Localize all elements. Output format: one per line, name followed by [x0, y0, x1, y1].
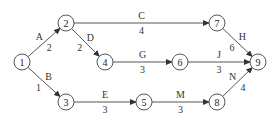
network-diagram: A2B1C4D2E3G3H6J3M3N4 123456789	[0, 0, 278, 123]
activity-label: C	[138, 10, 145, 21]
duration-label: 4	[241, 82, 246, 93]
duration-label: 3	[178, 104, 183, 115]
activity-label: E	[102, 89, 108, 100]
node-2: 2	[58, 15, 74, 31]
duration-label: 3	[140, 64, 145, 75]
node-4: 4	[97, 54, 113, 70]
edge-B	[28, 67, 60, 96]
duration-label: 2	[77, 42, 82, 53]
node-label: 7	[215, 18, 220, 29]
edge-A	[28, 28, 60, 56]
node-1: 1	[14, 54, 30, 70]
node-6: 6	[172, 54, 188, 70]
activity-label: D	[87, 32, 94, 43]
duration-label: 3	[103, 104, 108, 115]
node-label: 8	[215, 97, 220, 108]
activity-label: B	[45, 71, 52, 82]
node-label: 1	[20, 57, 25, 68]
node-label: 3	[64, 97, 69, 108]
activity-label: H	[239, 31, 246, 42]
duration-label: 6	[229, 42, 234, 53]
node-label: 9	[256, 57, 261, 68]
duration-label: 2	[47, 42, 52, 53]
edge-H	[223, 29, 252, 57]
node-9: 9	[250, 54, 266, 70]
activity-label: N	[229, 71, 236, 82]
activity-label: A	[36, 31, 44, 42]
node-label: 2	[64, 18, 69, 29]
node-label: 4	[103, 57, 108, 68]
node-label: 5	[142, 97, 147, 108]
node-label: 6	[178, 57, 183, 68]
activity-label: J	[217, 49, 221, 60]
node-7: 7	[209, 15, 225, 31]
activity-label: G	[139, 49, 146, 60]
duration-label: 3	[217, 64, 222, 75]
edge-D	[72, 29, 100, 57]
duration-label: 1	[36, 82, 41, 93]
activity-label: M	[176, 89, 185, 100]
duration-label: 4	[139, 25, 144, 36]
node-8: 8	[209, 94, 225, 110]
edge-N	[223, 68, 253, 97]
node-3: 3	[58, 94, 74, 110]
node-5: 5	[136, 94, 152, 110]
